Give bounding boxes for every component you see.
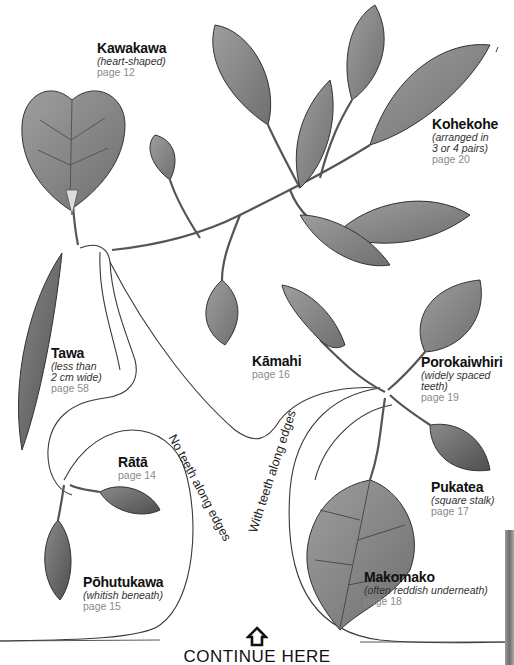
leaf-illustration <box>0 0 514 665</box>
page-edge <box>505 530 514 665</box>
species-name: Tawa <box>51 346 102 361</box>
label-rata: Rātā page 14 <box>118 455 156 481</box>
species-name: Makomako <box>364 570 488 585</box>
label-makomako: Makomako (often reddish underneath) page… <box>364 570 488 607</box>
pohutukawa-leaf <box>45 520 71 600</box>
continue-label: CONTINUE HERE <box>0 647 514 665</box>
species-name: Rātā <box>118 455 156 470</box>
rata-leaf <box>100 487 160 514</box>
page-ref: page 58 <box>51 383 102 394</box>
label-pohutukawa: Pōhutukawa (whitish beneath) page 15 <box>83 575 163 612</box>
kamahi-leaf <box>282 285 345 348</box>
species-name: Kāmahi <box>252 354 301 369</box>
page-ref: page 15 <box>83 601 163 612</box>
label-kawakawa: Kawakawa (heart-shaped) page 12 <box>97 41 166 78</box>
label-kohekohe: Kohekohe (arranged in 3 or 4 pairs) page… <box>432 117 498 165</box>
species-note: (widely spaced teeth) <box>421 370 514 392</box>
species-name: Kohekohe <box>432 117 498 132</box>
page-ref: page 17 <box>431 506 495 517</box>
leaf-key-diagram: Kawakawa (heart-shaped) page 12 Kohekohe… <box>0 0 514 665</box>
label-tawa: Tawa (less than 2 cm wide) page 58 <box>51 346 102 394</box>
species-name: Pukatea <box>431 480 495 495</box>
pukatea-leaf <box>430 424 490 471</box>
home-arrow-up-icon <box>246 626 268 648</box>
label-porokaiwhiri: Porokaiwhiri (widely spaced teeth) page … <box>421 355 514 403</box>
species-name: Porokaiwhiri <box>421 355 514 370</box>
species-name: Kawakawa <box>97 41 166 56</box>
porokaiwhiri-leaf <box>420 280 481 352</box>
page-ref: page 12 <box>97 67 166 78</box>
makomako-leaf <box>307 480 415 630</box>
page-ref: page 20 <box>432 154 498 165</box>
label-kamahi: Kāmahi page 16 <box>252 354 301 380</box>
page-ref: page 18 <box>364 596 488 607</box>
label-pukatea: Pukatea (square stalk) page 17 <box>431 480 495 517</box>
page-ref: page 19 <box>421 392 514 403</box>
continue-here[interactable]: CONTINUE HERE <box>0 626 514 665</box>
page-ref: page 14 <box>118 470 156 481</box>
page-ref: page 16 <box>252 369 301 380</box>
species-name: Pōhutukawa <box>83 575 163 590</box>
